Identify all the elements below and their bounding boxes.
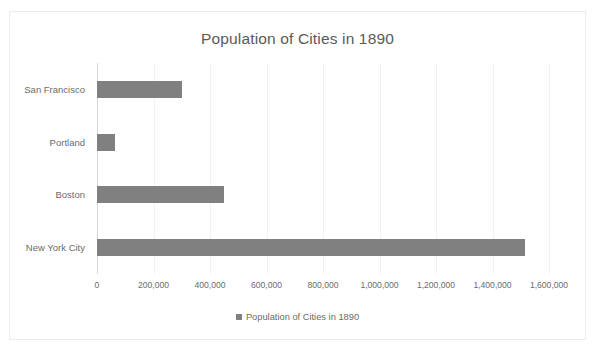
- value-tick-label: 0: [95, 280, 100, 290]
- value-tick-label: 1,200,000: [417, 280, 455, 290]
- chart-frame: Population of Cities in 1890 San Francis…: [9, 11, 586, 340]
- bar-row: [97, 221, 549, 274]
- legend-label: Population of Cities in 1890: [246, 312, 359, 322]
- bar-row: [97, 116, 549, 169]
- bar-row: [97, 63, 549, 116]
- bar: [97, 186, 224, 203]
- value-tick-label: 600,000: [251, 280, 282, 290]
- legend-swatch-icon: [236, 314, 242, 320]
- value-tick-label: 1,400,000: [473, 280, 511, 290]
- category-label: Boston: [55, 169, 85, 222]
- category-label: Portland: [50, 116, 85, 169]
- category-axis-labels: San FranciscoPortlandBostonNew York City: [10, 63, 92, 274]
- value-tick-label: 400,000: [194, 280, 225, 290]
- value-tick-label: 800,000: [307, 280, 338, 290]
- category-label: San Francisco: [24, 63, 85, 116]
- chart-legend: Population of Cities in 1890: [10, 312, 585, 322]
- bar-row: [97, 169, 549, 222]
- bar: [97, 81, 182, 98]
- chart-title: Population of Cities in 1890: [10, 30, 585, 48]
- value-axis-labels: 0200,000400,000600,000800,0001,000,0001,…: [97, 280, 549, 296]
- value-tick-label: 1,000,000: [360, 280, 398, 290]
- category-label: New York City: [26, 221, 85, 274]
- bar-series: [97, 63, 549, 274]
- value-tick-label: 200,000: [138, 280, 169, 290]
- value-tick-label: 1,600,000: [530, 280, 568, 290]
- bar: [97, 239, 525, 256]
- plot-area: [97, 63, 549, 274]
- bar: [97, 134, 115, 151]
- gridline: [549, 63, 550, 274]
